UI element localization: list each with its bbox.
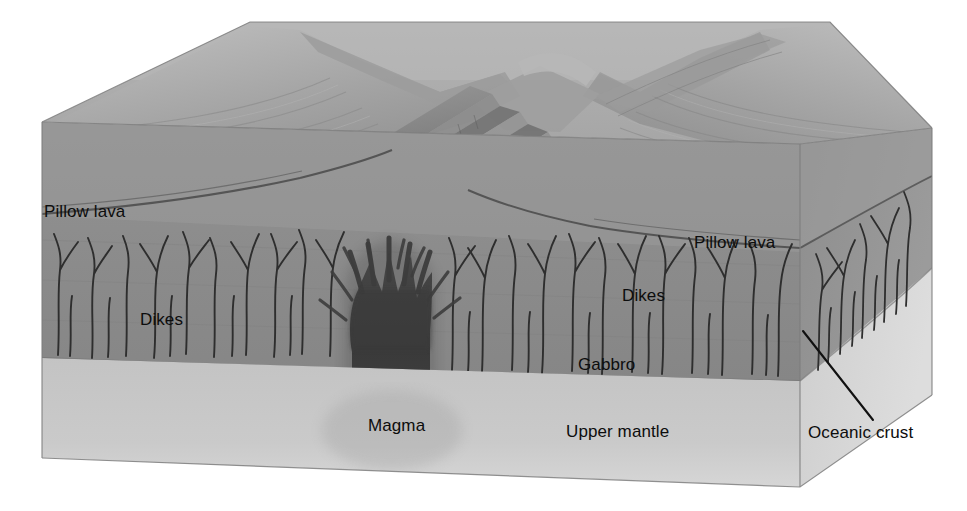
label-dikes-right: Dikes [622,287,665,304]
label-upper-mantle: Upper mantle [566,423,669,440]
label-gabbro: Gabbro [578,356,635,373]
figure-canvas: Pillow lava Dikes Pillow lava Dikes Gabb… [0,0,967,511]
label-dikes-left: Dikes [140,311,183,328]
label-oceanic-crust: Oceanic crust [808,424,913,441]
label-pillow-lava-left: Pillow lava [44,203,125,220]
label-magma: Magma [368,417,425,434]
label-pillow-lava-right: Pillow lava [694,234,775,251]
